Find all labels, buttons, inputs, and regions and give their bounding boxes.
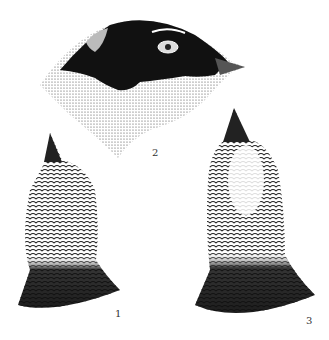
- throat-figure-1: [18, 133, 120, 308]
- illustration: [0, 0, 329, 340]
- bird-head-figure-2: [40, 20, 245, 158]
- figure-label-2: 2: [152, 147, 158, 158]
- figure-label-1: 1: [115, 308, 121, 319]
- figure-label-3: 3: [306, 315, 312, 326]
- throat-figure-3: [195, 108, 315, 313]
